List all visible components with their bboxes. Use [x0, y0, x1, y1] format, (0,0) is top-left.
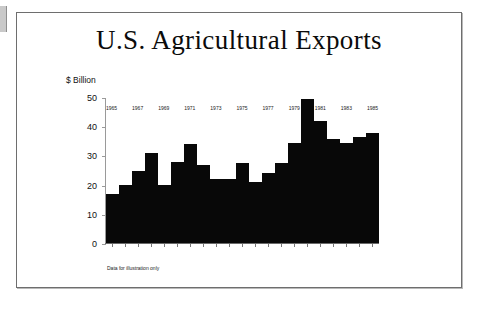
y-axis-unit-label: $ Billion — [66, 75, 96, 85]
x-tick-mark — [346, 244, 347, 247]
x-tick-mark — [216, 244, 217, 247]
y-tick-label: 20 — [87, 181, 97, 191]
y-tick-mark: 10 — [102, 215, 106, 216]
x-tick-mark — [333, 244, 334, 247]
bar — [145, 153, 158, 243]
bar — [197, 165, 210, 243]
x-tick-mark — [177, 244, 178, 247]
x-tick-mark — [229, 244, 230, 247]
x-tick-label: 1971 — [184, 105, 195, 111]
bar-chart: $ Billion 01020304050 196519671969197119… — [17, 13, 463, 289]
x-tick-label: 1969 — [158, 105, 169, 111]
scan-edge-artifact — [0, 6, 7, 32]
x-tick-label: 1973 — [210, 105, 221, 111]
x-tick-mark — [138, 244, 139, 247]
x-tick-mark — [242, 244, 243, 247]
y-tick-label: 10 — [87, 210, 97, 220]
x-tick-mark — [320, 244, 321, 247]
bar — [327, 139, 340, 243]
bar-series — [106, 98, 379, 243]
x-tick-mark — [164, 244, 165, 247]
bar — [262, 173, 275, 243]
bar — [340, 143, 353, 243]
bar — [249, 182, 262, 243]
x-tick-mark — [307, 244, 308, 247]
bar — [184, 144, 197, 243]
x-tick-mark — [151, 244, 152, 247]
x-tick-mark — [372, 244, 373, 247]
bar — [132, 171, 145, 244]
x-tick-mark — [359, 244, 360, 247]
x-tick-mark — [125, 244, 126, 247]
chart-footnote: Data for illustration only — [107, 265, 159, 271]
y-tick-mark: 20 — [102, 186, 106, 187]
x-tick-label: 1983 — [341, 105, 352, 111]
bar — [314, 121, 327, 243]
bar — [366, 133, 379, 243]
y-tick-label: 0 — [92, 239, 97, 249]
x-tick-label: 1975 — [236, 105, 247, 111]
bar — [223, 179, 236, 243]
bar — [210, 179, 223, 243]
x-tick-mark — [203, 244, 204, 247]
bar — [158, 185, 171, 243]
y-tick-mark: 0 — [102, 244, 106, 245]
y-tick-label: 40 — [87, 122, 97, 132]
y-tick-mark: 30 — [102, 156, 106, 157]
bar — [106, 194, 119, 243]
y-tick-label: 30 — [87, 151, 97, 161]
x-tick-label: 1967 — [132, 105, 143, 111]
x-tick-label: 1979 — [289, 105, 300, 111]
bar — [353, 137, 366, 243]
x-tick-mark — [255, 244, 256, 247]
y-tick-label: 50 — [87, 93, 97, 103]
x-tick-mark — [281, 244, 282, 247]
y-tick-mark: 40 — [102, 127, 106, 128]
bar — [301, 99, 314, 243]
x-tick-mark — [112, 244, 113, 247]
x-tick-mark — [268, 244, 269, 247]
x-tick-mark — [190, 244, 191, 247]
x-tick-label: 1977 — [263, 105, 274, 111]
bar — [171, 162, 184, 243]
bar — [119, 185, 132, 243]
bar — [275, 163, 288, 243]
bar — [236, 163, 249, 243]
x-tick-mark — [294, 244, 295, 247]
x-tick-label: 1965 — [106, 105, 117, 111]
y-tick-mark: 50 — [102, 98, 106, 99]
bar — [288, 143, 301, 243]
x-tick-label: 1981 — [315, 105, 326, 111]
slide-frame: U.S. Agricultural Exports $ Billion 0102… — [16, 12, 462, 288]
x-tick-label: 1985 — [367, 105, 378, 111]
plot-area: 01020304050 1965196719691971197319751977… — [105, 98, 379, 244]
